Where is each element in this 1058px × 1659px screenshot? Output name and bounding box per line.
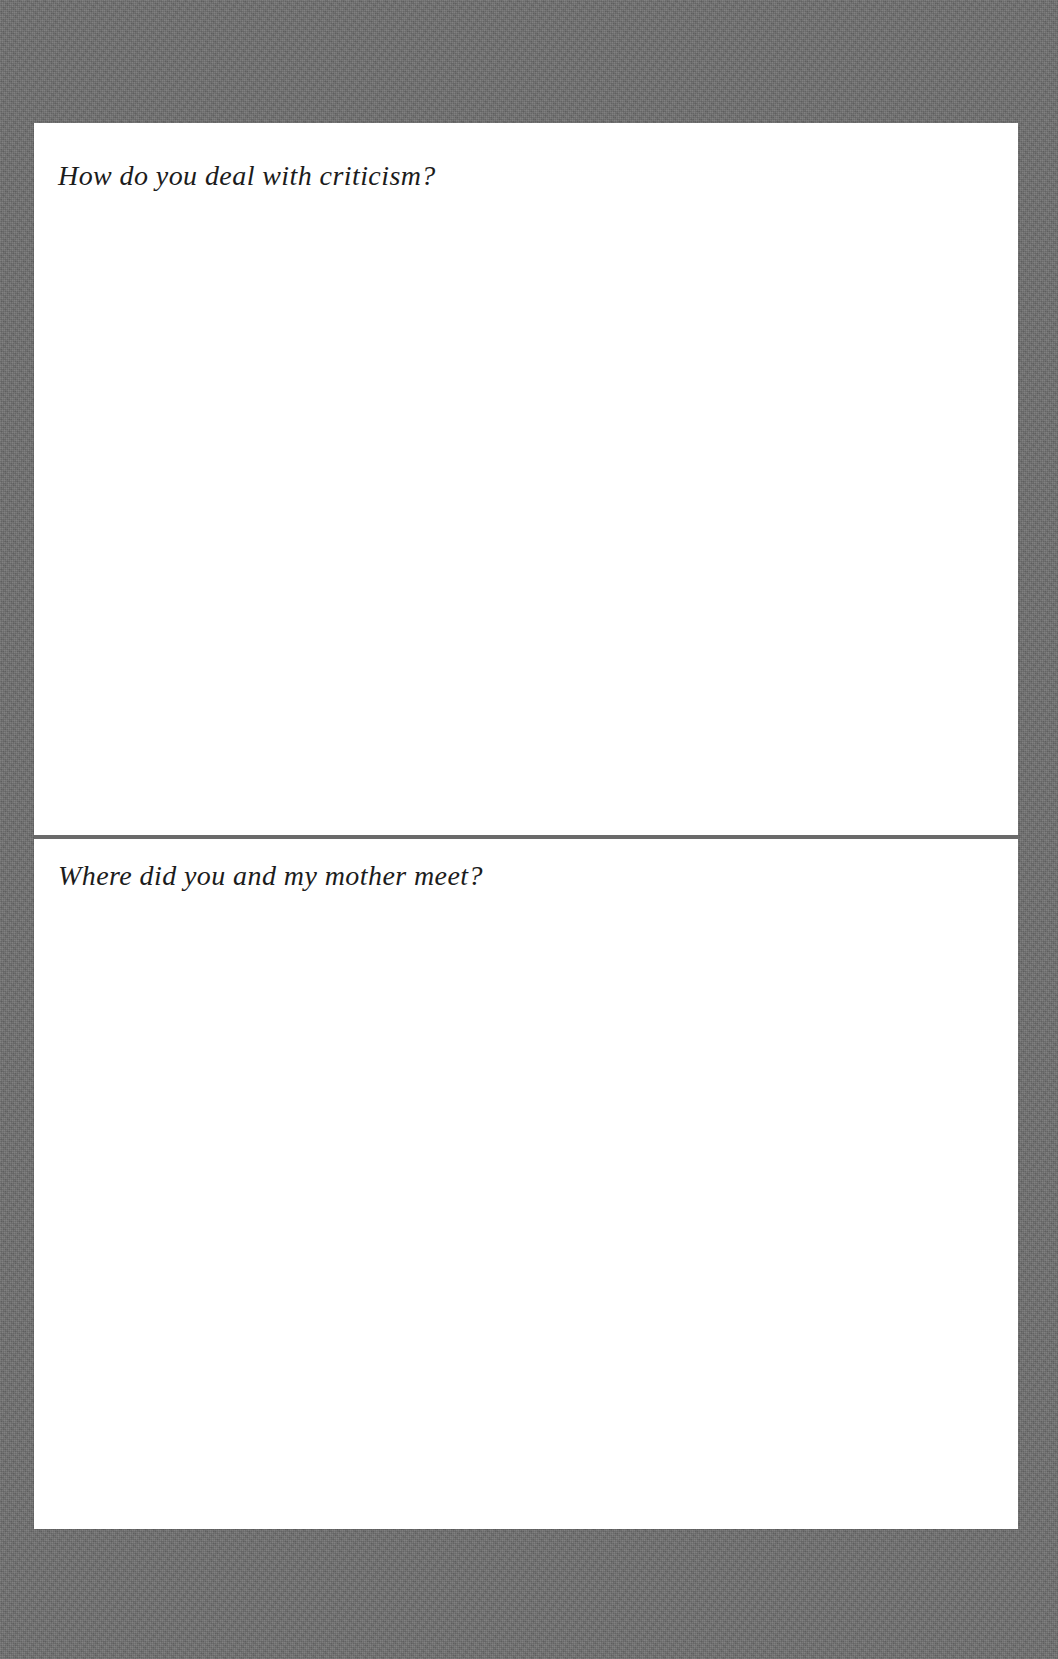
prompt-question-criticism: How do you deal with criticism? (58, 162, 436, 190)
prompt-section-bottom: Where did you and my mother meet? (34, 836, 1018, 1525)
page-backdrop: How do you deal with criticism? Where di… (0, 0, 1058, 1659)
prompt-section-top: How do you deal with criticism? (34, 123, 1018, 836)
journal-page: How do you deal with criticism? Where di… (34, 123, 1018, 1529)
answer-writing-area-criticism[interactable] (58, 209, 998, 809)
prompt-question-mother-meet: Where did you and my mother meet? (58, 862, 483, 890)
answer-writing-area-mother-meet[interactable] (58, 910, 998, 1500)
